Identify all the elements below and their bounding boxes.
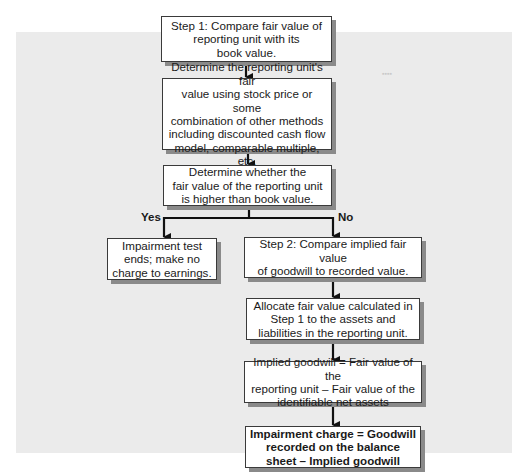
node-allocate: Allocate fair value calculated in Step 1… [246,298,420,340]
node-determine-fair-value-text: Determine the reporting unit's fair valu… [167,60,327,167]
faint-stamp: ▪▪▪▪ [382,70,408,78]
node-yes-outcome-text: Impairment test ends; make no charge to … [112,239,211,279]
branch-label-no: No [338,211,353,223]
node-implied-goodwill-text: Implied goodwill = Fair value of the rep… [249,355,417,409]
node-yes-outcome: Impairment test ends; make no charge to … [107,238,217,280]
node-impairment-charge: Impairment charge = Goodwill recorded on… [245,426,421,468]
node-decision: Determine whether the fair value of the … [163,165,332,206]
node-allocate-text: Allocate fair value calculated in Step 1… [253,299,412,339]
node-step2-text: Step 2: Compare implied fair value of go… [249,237,417,277]
node-step2: Step 2: Compare implied fair value of go… [244,237,422,278]
node-step1-text: Step 1: Compare fair value of reporting … [171,19,322,59]
node-implied-goodwill: Implied goodwill = Fair value of the rep… [244,361,422,403]
node-determine-fair-value: Determine the reporting unit's fair valu… [162,78,332,150]
node-decision-text: Determine whether the fair value of the … [172,165,322,205]
branch-label-yes: Yes [141,211,161,223]
node-impairment-charge-text: Impairment charge = Goodwill recorded on… [250,427,416,467]
node-step1: Step 1: Compare fair value of reporting … [161,16,332,62]
